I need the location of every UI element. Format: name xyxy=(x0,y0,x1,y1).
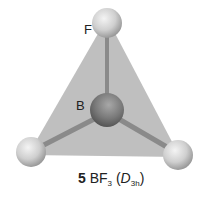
fluorine-atom-left xyxy=(16,137,46,167)
formula-base: BF xyxy=(90,170,108,186)
boron-label: B xyxy=(76,98,85,113)
boron-atom xyxy=(90,93,124,127)
formula-subscript: 3 xyxy=(108,179,112,188)
close-paren: ) xyxy=(140,170,145,186)
point-group-letter: D xyxy=(121,170,131,186)
fluorine-atom-top xyxy=(92,8,122,38)
molecule-caption: 5 BF3 (D3h) xyxy=(78,170,144,188)
fluorine-atom-right xyxy=(163,140,193,170)
trigonal-plane xyxy=(28,18,180,157)
compound-number: 5 xyxy=(78,170,86,186)
fluorine-label: F xyxy=(84,22,92,37)
point-group-subscript: 3h xyxy=(131,179,140,188)
